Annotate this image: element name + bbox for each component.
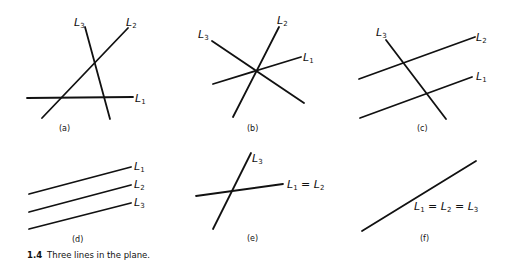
label-l1: L1: [134, 160, 145, 174]
panel-c: L3 L2 L1 (c): [359, 26, 487, 133]
panel-a: L3 L2 L1 (a): [27, 16, 146, 133]
panel-d: L1 L2 L3 (d): [29, 160, 145, 244]
caption-text: Three lines in the plane.: [47, 250, 150, 260]
label-l2: L2: [126, 16, 137, 30]
label-l1-eq-l2-eq-l3: L1 = L2 = L3: [414, 200, 478, 214]
figure-caption: 1.4Three lines in the plane.: [27, 250, 150, 260]
panel-f: L1 = L2 = L3 (f): [362, 161, 478, 243]
panel-label-d: (d): [72, 235, 83, 244]
panel-label-b: (b): [247, 124, 258, 133]
figure-number: 1.4: [27, 250, 42, 260]
label-l2: L2: [134, 178, 145, 192]
line-l3: [386, 40, 446, 119]
three-lines-figure: L3 L2 L1 (a) L2 L3 L1 (b) L3 L2 L1 (c) L…: [0, 0, 513, 274]
label-l2: L2: [277, 14, 288, 28]
label-l3: L3: [376, 26, 387, 40]
line-l2: [359, 37, 475, 79]
panel-e: L3 L1 = L2 (e): [196, 152, 324, 243]
label-l2: L2: [476, 31, 487, 45]
label-l1-eq-l2: L1 = L2: [287, 178, 324, 192]
line-l1: [360, 77, 472, 118]
panel-label-f: (f): [420, 234, 429, 243]
label-l1: L1: [476, 70, 487, 84]
label-l3: L3: [198, 28, 209, 42]
line-l3: [85, 27, 110, 119]
label-l3: L3: [134, 196, 145, 210]
panel-b: L2 L3 L1 (b): [198, 14, 314, 133]
line-l2: [42, 28, 128, 118]
label-l3: L3: [74, 16, 85, 30]
panel-label-e: (e): [247, 234, 258, 243]
label-l1: L1: [135, 92, 146, 106]
line-l2: [233, 27, 279, 117]
label-l1: L1: [303, 51, 314, 65]
panel-label-c: (c): [417, 124, 428, 133]
label-l3: L3: [252, 152, 263, 166]
line-l3: [29, 203, 131, 229]
line-l1: [27, 97, 133, 98]
line-l1-eq-l2-eq-l3: [362, 161, 476, 231]
panel-label-a: (a): [59, 124, 70, 133]
line-l3: [212, 41, 304, 103]
line-l1-eq-l2: [196, 184, 283, 196]
